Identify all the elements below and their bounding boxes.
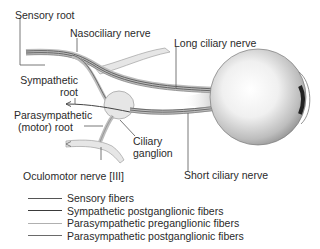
legend-item-parasympathetic-postganglionic: Parasympathetic postganglionic fibers <box>28 230 244 243</box>
legend-item-parasympathetic-preganglionic: Parasympathetic preganglionic fibers <box>28 217 244 230</box>
oculomotor-nerve <box>66 116 124 163</box>
legend-item-sympathetic-postganglionic: Sympathetic postganglionic fibers <box>28 205 244 218</box>
legend-swatch-sensory <box>28 198 62 199</box>
legend-label: Parasympathetic postganglionic fibers <box>67 230 244 242</box>
legend-label: Sensory fibers <box>67 192 134 204</box>
label-sympathetic-root-1: Sympathetic <box>20 74 78 86</box>
label-long-ciliary-nerve: Long ciliary nerve <box>174 37 256 49</box>
label-sympathetic-root-2: root <box>60 86 78 98</box>
short-ciliary-nerve <box>130 90 218 114</box>
legend-label: Parasympathetic preganglionic fibers <box>67 217 239 229</box>
label-parasympathetic-root-1: Parasympathetic <box>14 109 92 121</box>
sensory-root-leader <box>20 18 45 65</box>
label-nasociliary-nerve: Nasociliary nerve <box>70 27 151 39</box>
legend-swatch-parasympathetic-post <box>28 235 62 236</box>
label-short-ciliary-nerve: Short ciliary nerve <box>184 169 268 181</box>
legend-label: Sympathetic postganglionic fibers <box>67 205 223 217</box>
ciliary-ganglion <box>104 91 134 119</box>
legend-swatch-parasympathetic-pre <box>28 223 62 224</box>
label-sensory-root: Sensory root <box>15 9 75 21</box>
legend: Sensory fibers Sympathetic postganglioni… <box>28 192 244 242</box>
label-parasympathetic-root-2: (motor) root <box>18 121 73 133</box>
legend-item-sensory: Sensory fibers <box>28 192 244 205</box>
nasociliary-nerve <box>26 51 218 93</box>
label-oculomotor-nerve: Oculomotor nerve [III] <box>23 170 124 182</box>
eyeball <box>210 49 310 145</box>
label-ciliary-ganglion-2: ganglion <box>133 147 173 159</box>
legend-swatch-sympathetic <box>28 210 62 211</box>
label-ciliary-ganglion-1: Ciliary <box>133 135 162 147</box>
